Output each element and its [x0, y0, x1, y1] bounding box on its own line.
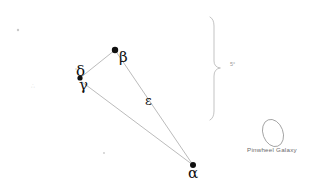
star-beta[interactable]: [112, 47, 118, 53]
star-label-gamma: γ: [79, 78, 88, 93]
faint-star-dot: [103, 152, 105, 154]
named-stars: [77, 47, 196, 168]
pinwheel-galaxy-outline: [259, 116, 287, 149]
star-label-beta: β: [119, 50, 128, 65]
brace-lower-arm: [210, 68, 220, 120]
faint-stars: [17, 29, 105, 154]
asterism-lines: [80, 50, 193, 165]
angular-scale-brace: [210, 17, 220, 120]
brace-upper-arm: [210, 17, 220, 68]
star-label-alpha: α: [188, 166, 198, 181]
line-beta-alpha: [115, 50, 193, 165]
line-delta-alpha: [82, 82, 193, 165]
angular-scale-label: 5°: [230, 62, 235, 68]
line-delta-beta: [80, 50, 115, 78]
pinwheel-galaxy-label: Pinwheel Galaxy: [247, 147, 297, 153]
star-chart-canvas: [0, 0, 313, 194]
faint-star-dot: [17, 29, 19, 31]
segment-label-epsilon: ε: [145, 94, 152, 107]
faint-mark: ∴: [31, 83, 35, 89]
